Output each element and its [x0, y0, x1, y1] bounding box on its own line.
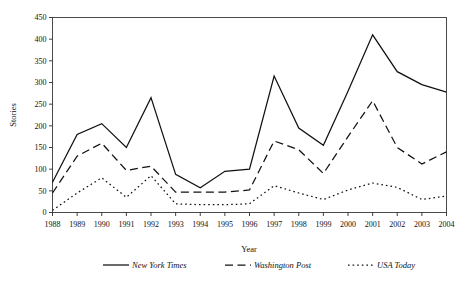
x-tick-label: 1991 [118, 220, 134, 229]
x-tick-label: 1993 [168, 220, 184, 229]
x-tick-label: 1992 [143, 220, 159, 229]
legend-label-washington-post: Washington Post [254, 260, 312, 270]
x-tick-label: 2003 [414, 220, 430, 229]
y-tick-label: 300 [35, 78, 47, 87]
x-tick-label: 1994 [192, 220, 208, 229]
x-tick-label: 1990 [94, 220, 110, 229]
x-tick-label: 2004 [439, 220, 455, 229]
y-tick-label: 150 [35, 143, 47, 152]
y-axis-title: Stories [8, 103, 18, 127]
y-tick-label: 250 [35, 100, 47, 109]
x-tick-label: 2001 [365, 220, 381, 229]
x-tick-label: 1989 [69, 220, 85, 229]
x-tick-label: 1996 [242, 220, 258, 229]
stories-by-newspaper-line-chart: 050100150200250300350400450 198819891990… [0, 0, 465, 283]
x-axis-title: Year [241, 244, 257, 254]
x-tick-label: 1995 [217, 220, 233, 229]
y-tick-label: 200 [35, 122, 47, 131]
y-tick-label: 100 [35, 165, 47, 174]
y-tick-label: 0 [43, 208, 47, 217]
legend-label-new-york-times: New York Times [131, 260, 187, 270]
legend-label-usa-today: USA Today [377, 260, 415, 270]
x-tick-label: 1988 [45, 220, 61, 229]
x-axis-tick-labels: 1988198919901991199219931994199519961997… [45, 220, 455, 229]
figure-background [0, 0, 465, 283]
y-tick-label: 350 [35, 57, 47, 66]
x-tick-label: 1997 [266, 220, 282, 229]
x-tick-label: 1998 [291, 220, 307, 229]
y-tick-label: 50 [39, 187, 47, 196]
x-tick-label: 2000 [340, 220, 356, 229]
x-tick-label: 1999 [315, 220, 331, 229]
y-tick-label: 450 [35, 13, 47, 22]
x-tick-label: 2002 [389, 220, 405, 229]
y-tick-label: 400 [35, 35, 47, 44]
